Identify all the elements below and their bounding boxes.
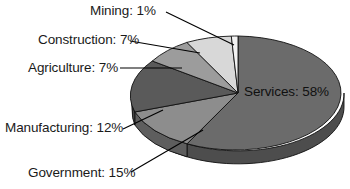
pie-label-agriculture: Agriculture: 7% (28, 61, 118, 75)
pie-label-manufacturing: Manufacturing: 12% (5, 121, 123, 135)
pie-label-government: Government: 15% (28, 166, 135, 180)
pie-label-services: Services: 58% (244, 85, 329, 99)
pie-chart-figure: Mining: 1% Construction: 7% Agriculture:… (0, 0, 350, 189)
pie-label-construction: Construction: 7% (38, 33, 139, 47)
pie-label-mining: Mining: 1% (90, 4, 156, 18)
